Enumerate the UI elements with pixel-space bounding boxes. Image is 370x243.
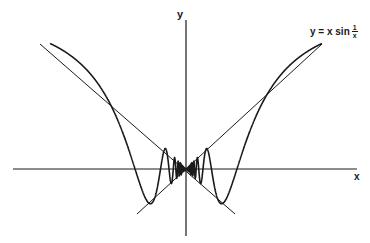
y-axis-label: y [177, 8, 183, 20]
fraction-numerator: 1 [352, 24, 358, 32]
line-y-equals-x [40, 44, 235, 214]
curve-equation-label: y = x sin 1 x [310, 24, 358, 39]
fraction-denominator: x [353, 32, 357, 39]
equation-fraction: 1 x [352, 24, 358, 39]
figure: y x y = x sin 1 x [0, 0, 370, 243]
line-y-equals-neg-x [137, 44, 322, 214]
equation-prefix: y = x sin [310, 26, 350, 37]
x-axis-label: x [354, 171, 360, 182]
